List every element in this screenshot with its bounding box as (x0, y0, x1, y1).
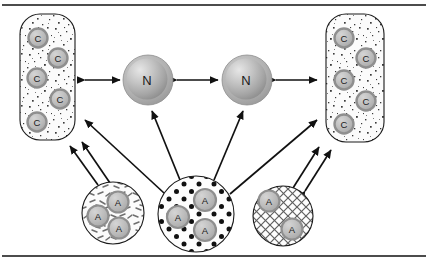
arrow-a-middle-to-c-right[interactable] (230, 120, 317, 194)
c-node-label: C (34, 73, 41, 84)
c-node-label: C (34, 117, 41, 128)
c-node-label: C (363, 53, 370, 64)
c-node[interactable]: C (28, 113, 47, 132)
a-node-label: A (115, 197, 122, 208)
c-node[interactable]: C (335, 71, 354, 90)
arrow-a-middle-to-n-left[interactable] (152, 111, 180, 180)
figure-root: C C C C C (0, 0, 428, 270)
arrow-a-right-to-c-right-inner[interactable] (293, 147, 319, 188)
c-node[interactable]: C (51, 90, 70, 109)
a-node[interactable]: A (259, 191, 280, 212)
c-node-label: C (35, 33, 42, 44)
a-node-label: A (289, 224, 296, 235)
arrow-a-right-to-c-right-outer[interactable] (305, 150, 331, 191)
a-node-label: A (202, 195, 209, 206)
c-node-label: C (363, 96, 370, 107)
n-node-right-label: N (241, 73, 250, 88)
a-node[interactable]: A (194, 219, 216, 241)
c-node-label: C (57, 94, 64, 105)
n-node-left[interactable]: N (123, 55, 173, 105)
arrow-a-left-to-c-left-outer[interactable] (70, 146, 98, 185)
arrow-a-left-to-c-left-inner[interactable] (82, 142, 110, 183)
c-node-label: C (341, 75, 348, 86)
c-panel-left[interactable]: C C C C C (20, 14, 75, 140)
a-node-label: A (116, 223, 123, 234)
diagram-canvas: C C C C C (0, 0, 428, 270)
c-node[interactable]: C (49, 49, 68, 68)
c-node[interactable]: C (29, 29, 48, 48)
a-node[interactable]: A (282, 219, 303, 240)
c-node[interactable]: C (335, 29, 354, 48)
arrow-a-middle-to-n-right[interactable] (214, 111, 243, 180)
n-node-left-label: N (142, 73, 151, 88)
n-node-right[interactable]: N (222, 55, 272, 105)
a-node[interactable]: A (194, 189, 216, 211)
c-node[interactable]: C (357, 92, 376, 111)
c-panel-right[interactable]: C C C C C (326, 14, 384, 142)
c-node-label: C (341, 119, 348, 130)
a-node[interactable]: A (88, 206, 109, 227)
c-node[interactable]: C (335, 115, 354, 134)
a-node-label: A (202, 225, 209, 236)
a-node-label: A (95, 211, 102, 222)
a-circle-left[interactable]: A A A (82, 182, 144, 244)
a-node-label: A (175, 212, 182, 223)
c-node[interactable]: C (28, 69, 47, 88)
a-node-label: A (266, 196, 273, 207)
c-node-label: C (55, 53, 62, 64)
a-circle-middle[interactable]: A A A (158, 176, 234, 252)
a-node[interactable]: A (108, 192, 129, 213)
c-node[interactable]: C (357, 49, 376, 68)
a-node[interactable]: A (167, 206, 189, 228)
c-node-label: C (341, 33, 348, 44)
a-circle-right[interactable]: A A (253, 186, 313, 246)
a-node[interactable]: A (109, 218, 130, 239)
